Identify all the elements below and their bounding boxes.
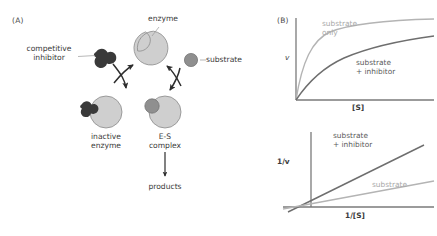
substrate-shape xyxy=(184,53,197,66)
panel-label-a: (A) xyxy=(12,16,24,25)
label-competitive-inhibitor: competitive inhibitor xyxy=(18,44,80,63)
es-complex-shape xyxy=(145,96,181,128)
legend-substrate-only: substrate only xyxy=(322,19,392,37)
panel-label-b: (B) xyxy=(277,16,289,25)
label-products: products xyxy=(135,182,195,191)
legend-substrate-plus-inhibitor-top: substrate + inhibitor xyxy=(356,58,436,76)
enzyme-shape xyxy=(134,31,170,65)
label-substrate: substrate xyxy=(206,55,258,64)
figure-container: (A) (B) enzyme competitive inhibitor sub… xyxy=(0,0,437,236)
axis-label-velocity: v xyxy=(285,53,289,62)
inhibitor-leader-line xyxy=(78,56,95,57)
legend-substrate-bottom: substrate xyxy=(372,180,434,189)
legend-substrate-plus-inhibitor-bottom: substrate + inhibitor xyxy=(333,131,415,149)
axis-label-inverse-velocity: 1/v xyxy=(277,157,290,166)
axis-label-inverse-substrate: 1/[S] xyxy=(345,211,365,220)
label-inactive-enzyme: inactive enzyme xyxy=(76,132,136,151)
axis-label-substrate-concentration: [S] xyxy=(352,103,364,112)
line-substrate-plus-inhibitor xyxy=(288,145,424,212)
inactive-enzyme-shape xyxy=(80,96,122,128)
label-es-complex: E-S complex xyxy=(135,132,195,151)
label-enzyme: enzyme xyxy=(134,14,192,23)
